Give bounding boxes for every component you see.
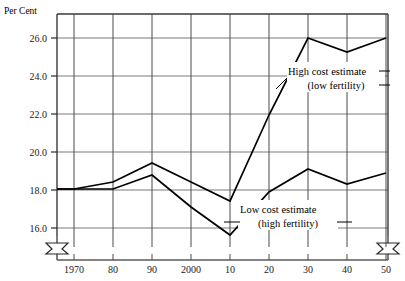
x-tick-label-2000: 2000: [181, 264, 201, 275]
chart-background: [0, 0, 405, 281]
y-tick-label-18: 18.0: [30, 185, 48, 196]
annotation-low-cost-line1: Low cost estimate: [240, 204, 317, 215]
annotation-low-cost-line2: (high fertility): [258, 218, 318, 230]
x-tick-label-2050: 50: [381, 264, 391, 275]
y-tick-label-24: 24.0: [30, 71, 48, 82]
annotation-high-cost-line1: High cost estimate: [288, 66, 366, 77]
x-tick-label-1990: 90: [147, 264, 157, 275]
x-tick-label-2030: 30: [303, 264, 313, 275]
y-axis-title: Per Cent: [4, 6, 37, 16]
x-tick-label-2020: 20: [264, 264, 274, 275]
annotation-high-cost: High cost estimate (low fertility): [276, 62, 390, 92]
x-tick-label-2040: 40: [342, 264, 352, 275]
y-tick-label-22: 22.0: [30, 109, 48, 120]
x-tick-label-1970: 1970: [64, 264, 84, 275]
y-tick-label-16: 16.0: [30, 223, 48, 234]
x-tick-label-2010: 10: [225, 264, 235, 275]
line-chart: Per Cent: [0, 0, 405, 281]
y-tick-label-26: 26.0: [30, 33, 48, 44]
y-tick-label-20: 20.0: [30, 147, 48, 158]
chart-container: Per Cent: [0, 0, 405, 281]
annotation-low-cost: Low cost estimate (high fertility): [224, 200, 352, 230]
annotation-high-cost-line2: (low fertility): [308, 80, 365, 92]
x-tick-label-1980: 80: [108, 264, 118, 275]
